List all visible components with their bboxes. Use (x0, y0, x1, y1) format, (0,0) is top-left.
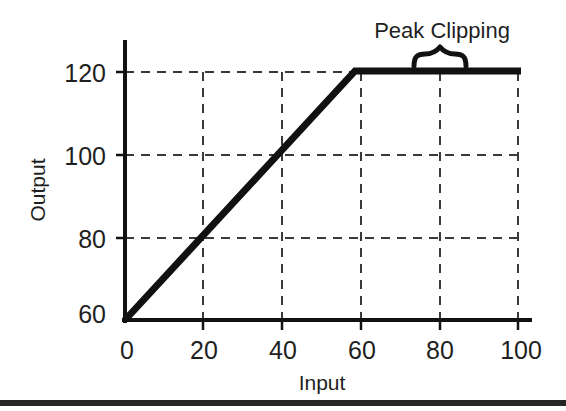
y-tick-label-80: 80 (78, 225, 106, 253)
transfer-curve-chart: 120 100 80 60 0 20 40 60 80 100 Output I… (0, 0, 566, 411)
y-tick-label-100: 100 (64, 142, 106, 170)
y-axis-title: Output (26, 158, 49, 221)
x-tick-label-60: 60 (348, 336, 376, 364)
bottom-divider-rule (0, 400, 566, 406)
x-tick-label-0: 0 (120, 336, 134, 364)
chart-figure: 120 100 80 60 0 20 40 60 80 100 Output I… (0, 0, 566, 411)
x-tick-label-40: 40 (269, 336, 297, 364)
peak-clipping-label: Peak Clipping (374, 18, 510, 43)
data-series-transfer-curve (125, 71, 521, 320)
x-axis-title: Input (299, 371, 346, 394)
x-tick-label-80: 80 (426, 336, 454, 364)
y-tick-label-120: 120 (64, 59, 106, 87)
x-tick-label-100: 100 (500, 336, 542, 364)
axes (124, 42, 530, 321)
x-tick-label-20: 20 (190, 336, 218, 364)
y-tick-label-60: 60 (78, 300, 106, 328)
peak-clipping-brace-icon (414, 47, 466, 66)
